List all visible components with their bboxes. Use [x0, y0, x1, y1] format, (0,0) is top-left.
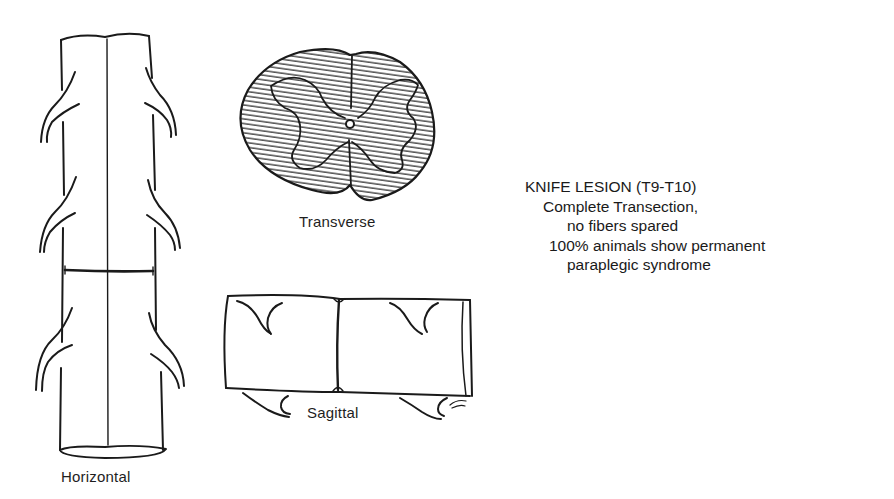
annotation-line-fibers: no fibers spared: [525, 216, 765, 236]
sagittal-section-drawing: [224, 295, 472, 419]
annotation-line-syndrome: paraplegic syndrome: [525, 255, 765, 275]
spinal-cord-lesion-figure: Horizontal Transverse Sagittal KNIFE LES…: [0, 0, 894, 499]
transverse-section-drawing: [225, 40, 445, 210]
horizontal-label: Horizontal: [61, 468, 131, 485]
transverse-label: Transverse: [299, 213, 375, 230]
annotation-title: KNIFE LESION (T9-T10): [525, 177, 765, 197]
lesion-annotation: KNIFE LESION (T9-T10) Complete Transecti…: [525, 177, 765, 275]
horizontal-section-drawing: [36, 34, 184, 458]
annotation-line-transection: Complete Transection,: [525, 197, 765, 217]
sagittal-label: Sagittal: [307, 404, 359, 421]
annotation-line-outcome: 100% animals show permanent: [525, 236, 765, 256]
